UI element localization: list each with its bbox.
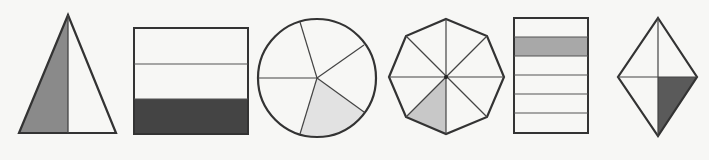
rectangle-sixths-shaded-part <box>514 37 588 56</box>
figure-svg <box>0 0 709 160</box>
circle-divider-1 <box>300 22 317 78</box>
rectangle-thirds-shaded-part <box>134 99 248 134</box>
octagon-center-dot <box>444 75 448 79</box>
rectangle-sixths-shape <box>514 18 588 133</box>
rhombus-shape <box>618 18 697 136</box>
circle-divider-2 <box>317 45 364 78</box>
circle-shape <box>258 19 376 137</box>
octagon-shape <box>389 19 504 134</box>
fraction-shapes-figure <box>0 0 709 160</box>
triangle-shape <box>19 15 116 133</box>
rectangle-thirds-shape <box>134 28 248 134</box>
circle-shaded-sector <box>300 78 364 136</box>
